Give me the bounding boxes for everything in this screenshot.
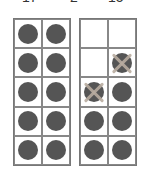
frame-cell	[108, 77, 136, 106]
left-ten-frame	[13, 18, 71, 166]
frame-cell	[80, 77, 108, 106]
crossed-counter-icon	[112, 53, 132, 73]
frame-cell	[14, 48, 42, 77]
counter-icon	[112, 111, 132, 131]
equation-operator: −	[50, 0, 58, 5]
counter-icon	[46, 111, 66, 131]
crossed-counter-icon	[84, 82, 104, 102]
frame-cell	[80, 48, 108, 77]
counter-icon	[18, 140, 38, 160]
frame-cell	[14, 77, 42, 106]
frame-cell	[108, 136, 136, 165]
counter-icon	[18, 24, 38, 44]
frame-cell	[108, 107, 136, 136]
counter-icon	[112, 82, 132, 102]
frame-cell	[42, 19, 70, 48]
frame-cell	[14, 19, 42, 48]
frame-cell	[42, 77, 70, 106]
counter-icon	[46, 53, 66, 73]
counter-icon	[46, 140, 66, 160]
counter-icon	[18, 53, 38, 73]
frame-cell	[80, 136, 108, 165]
counter-icon	[18, 82, 38, 102]
frame-cell	[42, 107, 70, 136]
equation-subtrahend: 2	[70, 0, 78, 5]
equation-minuend: 17	[22, 0, 38, 5]
frame-cell	[108, 48, 136, 77]
frame-cell	[42, 136, 70, 165]
equation-equals: =	[90, 0, 98, 5]
counter-icon	[84, 140, 104, 160]
right-ten-frame	[79, 18, 137, 166]
frame-cell	[80, 107, 108, 136]
counter-icon	[46, 82, 66, 102]
counter-icon	[18, 111, 38, 131]
frame-cell	[42, 48, 70, 77]
frame-cell	[108, 19, 136, 48]
frame-cell	[14, 136, 42, 165]
frame-cell	[80, 19, 108, 48]
frame-cell	[14, 107, 42, 136]
counter-icon	[84, 111, 104, 131]
equation-result: 15	[108, 0, 124, 5]
counter-icon	[112, 140, 132, 160]
equation: 17 − 2 = 15	[0, 0, 145, 3]
counter-icon	[46, 24, 66, 44]
